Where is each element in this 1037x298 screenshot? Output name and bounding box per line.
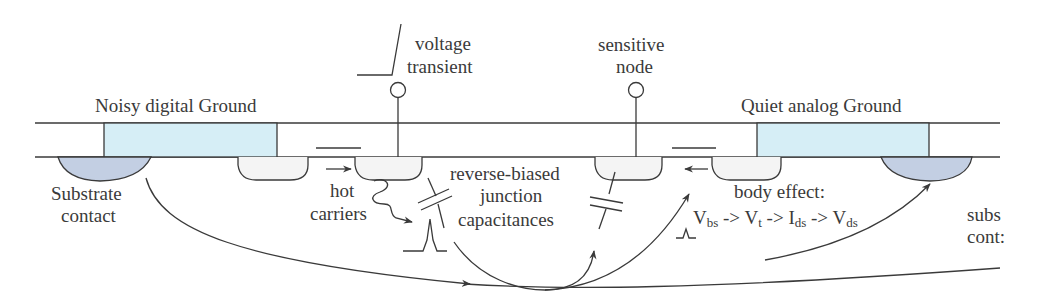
substrate-contact-left bbox=[58, 157, 151, 181]
substrate-contact-left-label-1: Substrate bbox=[51, 183, 122, 204]
sensitive-node-terminal bbox=[629, 83, 644, 158]
substrate-contact-right-label-2: cont: bbox=[967, 226, 1005, 247]
body-effect-label: body effect: bbox=[734, 181, 825, 202]
rbjc-label-3: capacitances bbox=[458, 209, 554, 230]
voltage-transient-label-1: voltage bbox=[415, 33, 471, 54]
hot-carriers-label-1: hot bbox=[330, 180, 355, 201]
body-effect-chain: Vbs -> Vt -> Ids -> Vds bbox=[693, 207, 858, 230]
diffusion-3 bbox=[595, 157, 662, 180]
rbjc-label-1: reverse-biased bbox=[450, 163, 560, 184]
capacitor-left bbox=[418, 178, 452, 228]
voltage-transient-label-2: transient bbox=[407, 56, 473, 77]
noisy-ground-plate bbox=[104, 123, 277, 157]
sensitive-node-label-2: node bbox=[616, 56, 653, 77]
substrate-contact-left-label-2: contact bbox=[61, 205, 117, 226]
path-cap-to-sensitive bbox=[454, 242, 594, 290]
quiet-ground-plate bbox=[757, 123, 929, 157]
hot-carrier-wavy-arrow bbox=[373, 180, 412, 222]
sensitive-node-label-1: sensitive bbox=[598, 34, 665, 55]
diffusion-1 bbox=[238, 157, 308, 180]
pulse-icon-small bbox=[676, 229, 696, 238]
pulse-icon-large bbox=[403, 219, 447, 251]
hot-carriers-label-2: carriers bbox=[310, 203, 367, 224]
path-to-body bbox=[545, 194, 689, 290]
rbjc-label-2: junction bbox=[479, 185, 543, 206]
diffusion-4 bbox=[712, 157, 781, 180]
path-from-substrate-contact bbox=[146, 178, 470, 284]
quiet-ground-label: Quiet analog Ground bbox=[741, 95, 902, 116]
noisy-ground-label: Noisy digital Ground bbox=[95, 95, 257, 116]
voltage-transient-terminal bbox=[357, 24, 406, 157]
step-waveform-icon bbox=[357, 24, 401, 75]
substrate-coupling-diagram: Noisy digital Ground Quiet analog Ground… bbox=[0, 0, 1037, 298]
substrate-contact-right-label-1: subs bbox=[967, 204, 1001, 225]
substrate-contact-right bbox=[881, 157, 972, 181]
diffusion-2 bbox=[355, 157, 422, 180]
substrate-current-paths bbox=[146, 178, 1000, 290]
